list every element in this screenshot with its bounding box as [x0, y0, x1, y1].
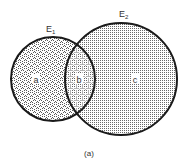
venn-diagram: a b c E1 E2 (a) — [0, 0, 188, 164]
region-a-label: a — [33, 75, 38, 85]
set-e1-label: E1 — [46, 24, 56, 35]
set-e2-label: E2 — [119, 9, 129, 20]
set-e1-label-sub: 1 — [52, 29, 56, 35]
set-e2-label-sub: 2 — [125, 14, 129, 20]
region-c-label: c — [133, 75, 138, 85]
figure-caption: (a) — [84, 149, 94, 158]
region-b-label: b — [76, 75, 81, 85]
